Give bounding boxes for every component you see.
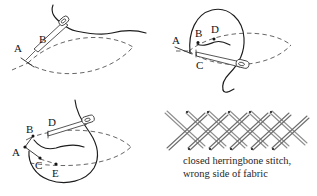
panel-2-dot-b — [197, 41, 200, 44]
panel-3-stitch-ab — [25, 136, 33, 147]
panel-3-label-e: E — [52, 167, 59, 179]
panel-2-group: A B D C — [172, 9, 291, 92]
panel-3-group: A B C D E — [12, 100, 131, 183]
panel-2-label-c: C — [196, 59, 203, 71]
panel-1-needle-point — [26, 51, 35, 60]
panel-3-dot-a — [23, 145, 26, 148]
herringbone-stitch-figure: A B — [0, 0, 317, 196]
panel-3-label-a: A — [12, 146, 20, 158]
panel-2-thread-segment — [197, 41, 230, 45]
panel-2-label-b: B — [195, 27, 202, 39]
panel-2-label-d: D — [211, 23, 219, 35]
panel-3-dash-ce — [40, 159, 56, 164]
caption-line-1: closed herringbone stitch, — [183, 155, 313, 168]
panel-3-guideline-mid — [26, 138, 30, 140]
panel-1-guideline-tail — [12, 63, 28, 70]
panel-3-guideline-lower — [30, 147, 131, 166]
panel-3-guideline-upper — [30, 130, 131, 147]
panel-2-dot-d — [213, 38, 216, 41]
panel-3-label-d: D — [48, 116, 56, 128]
panel-2-thread-tail — [223, 89, 234, 92]
caption-line-2: wrong side of fabric — [183, 168, 313, 181]
panel-3-dot-e — [54, 162, 57, 165]
panel-1-label-b: B — [39, 33, 46, 45]
panel-4-group — [165, 111, 309, 150]
panel-1-group: A B — [12, 5, 146, 74]
panel-1-label-a: A — [14, 42, 22, 54]
panel-2-thread-loop — [190, 9, 244, 90]
figure-caption: closed herringbone stitch, wrong side of… — [183, 155, 313, 180]
panel-3-label-b: B — [26, 123, 33, 135]
panel-3-label-c: C — [35, 159, 42, 171]
panel-2-guideline-upper — [189, 33, 291, 51]
panel-2-label-a: A — [172, 34, 180, 46]
panel-3-thread-segment — [34, 140, 84, 149]
panel-3-stitch-ac — [25, 147, 40, 158]
